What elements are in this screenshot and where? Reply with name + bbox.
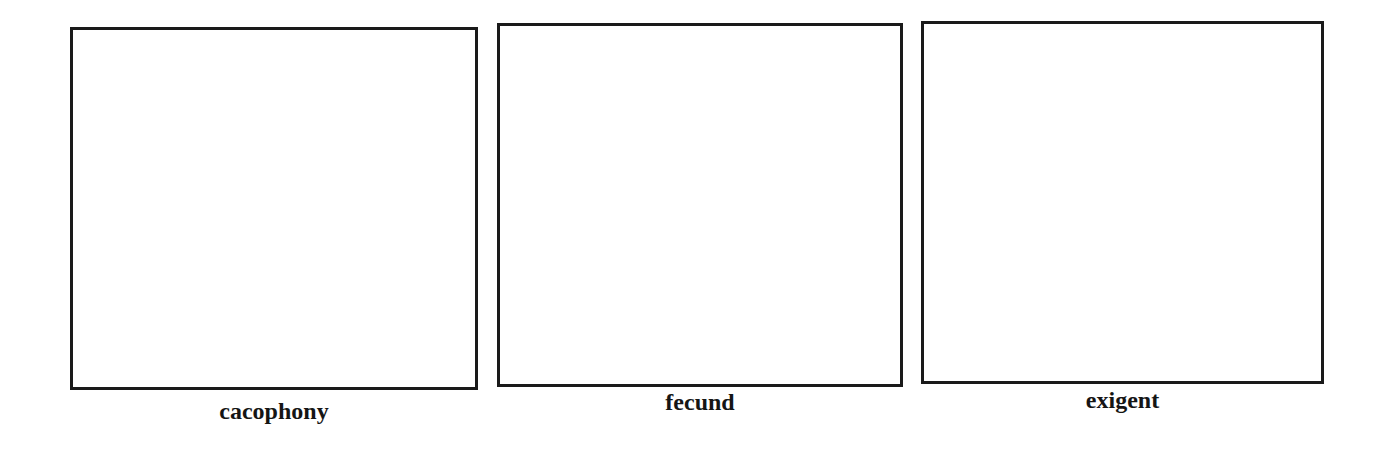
panel-label: fecund [497, 389, 903, 416]
panel-label: exigent [921, 387, 1324, 414]
panel-cacophony: cacophony [70, 27, 478, 432]
empty-image-box [497, 23, 903, 387]
empty-image-box [70, 27, 478, 390]
empty-image-box [921, 21, 1324, 384]
panel-fecund: fecund [497, 23, 903, 428]
panel-label: cacophony [70, 398, 478, 425]
panel-exigent: exigent [921, 21, 1324, 426]
